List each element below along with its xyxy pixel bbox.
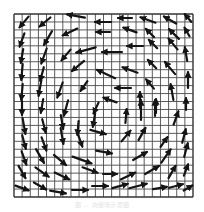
figure-caption: 图 … 向量场示意图 [0, 200, 204, 209]
vector-arrow-icon [21, 64, 22, 80]
vector-field-figure [0, 0, 204, 212]
vector-arrow-icon [21, 84, 22, 100]
vector-arrow-icon [125, 109, 126, 123]
